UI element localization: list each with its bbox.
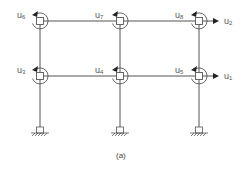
rotation-arrowhead-icon (32, 11, 38, 17)
rotation-arrowhead-icon (112, 66, 118, 72)
frame-diagram (0, 0, 246, 174)
dof-label-u7: u7 (95, 11, 103, 20)
rotation-arrowhead-icon (32, 66, 38, 72)
node-square-icon (196, 18, 203, 25)
rotation-arrowhead-icon (191, 66, 197, 72)
arrow-right-icon (203, 18, 219, 24)
dof-label-u5: u5 (175, 66, 183, 75)
fixed-support-icon (31, 127, 49, 136)
dof-label-u1: u1 (224, 72, 232, 81)
horizontal-dof-arrows (203, 18, 219, 79)
node-square-icon (37, 18, 44, 25)
dof-label-u6: u6 (17, 11, 25, 20)
node-square-icon (196, 73, 203, 80)
figure-caption: (a) (116, 151, 126, 160)
node-square-icon (37, 73, 44, 80)
node-square-icon (117, 18, 124, 25)
fixed-support-icon (111, 127, 129, 136)
rotation-arrowhead-icon (112, 11, 118, 17)
dof-label-u4: u4 (95, 66, 103, 75)
fixed-support-icon (190, 127, 208, 136)
arrow-right-icon (203, 73, 219, 79)
dof-label-u2: u2 (224, 17, 232, 26)
dof-label-u3: u3 (17, 66, 25, 75)
fixed-supports (31, 127, 208, 136)
dof-label-u8: u8 (175, 11, 183, 20)
rotation-arrowhead-icon (191, 11, 197, 17)
node-square-icon (117, 73, 124, 80)
